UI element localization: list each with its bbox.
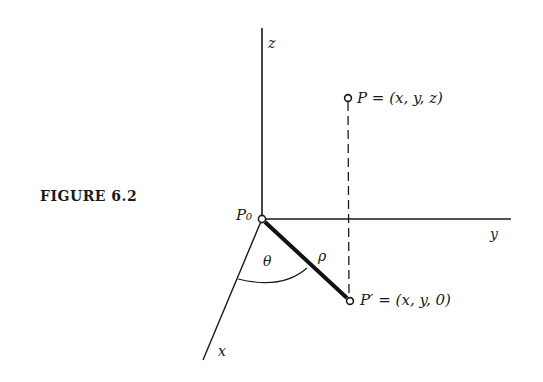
origin-label: P₀ (236, 208, 252, 223)
x-axis (203, 219, 262, 360)
theta-arc (238, 268, 307, 283)
point-p (345, 95, 352, 102)
point-p-prime (347, 298, 354, 305)
theta-label: θ (263, 254, 271, 268)
point-p-label: P = (x, y, z) (357, 91, 443, 106)
figure-caption: FIGURE 6.2 (40, 188, 137, 204)
projection-dashed-line (348, 102, 349, 297)
rho-segment (265, 222, 347, 298)
z-axis-label: z (268, 36, 275, 50)
point-p-prime-label: P′ = (x, y, 0) (360, 293, 451, 308)
y-axis-label: y (490, 227, 498, 241)
x-axis-label: x (218, 344, 226, 358)
diagram-canvas: FIGURE 6.2 z y x P₀ P = (x, y, z) P′ = (… (0, 0, 543, 382)
rho-label: ρ (318, 249, 326, 263)
origin-point (258, 215, 265, 222)
